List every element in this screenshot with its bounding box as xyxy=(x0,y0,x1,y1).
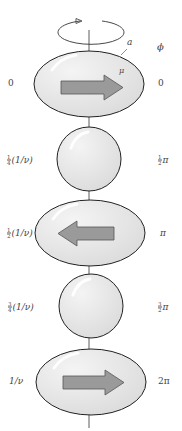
time-label-stage-5: 1/ν xyxy=(9,376,23,386)
moment-mu-label: μ xyxy=(119,66,124,75)
stage-3-oblate-nucleus xyxy=(35,200,145,266)
stage-1-oblate-nucleus xyxy=(34,49,144,117)
stage-5-oblate-nucleus xyxy=(36,349,146,415)
nuclear-shape-oscillation-diagram xyxy=(0,0,182,431)
axis-a-leader xyxy=(121,49,127,55)
stage-2-spherical-nucleus xyxy=(57,127,121,191)
phase-label-stage-4: 32π xyxy=(158,302,168,313)
phase-column-header: ϕ xyxy=(157,41,164,52)
phase-label-stage-3: π xyxy=(160,228,166,238)
time-label-stage-2: 14(1/ν) xyxy=(7,155,33,166)
time-label-stage-1: 0 xyxy=(8,78,14,88)
rotation-arrow-icon xyxy=(58,19,124,45)
time-label-stage-4: 34(1/ν) xyxy=(8,302,34,313)
axis-a-label: a xyxy=(127,37,132,47)
stage-4-spherical-nucleus xyxy=(59,274,123,338)
time-label-stage-3: 12(1/ν) xyxy=(7,228,33,239)
phase-label-stage-1: 0 xyxy=(158,78,164,88)
phase-label-stage-2: 12π xyxy=(158,155,168,166)
phase-label-stage-5: 2π xyxy=(158,376,170,386)
